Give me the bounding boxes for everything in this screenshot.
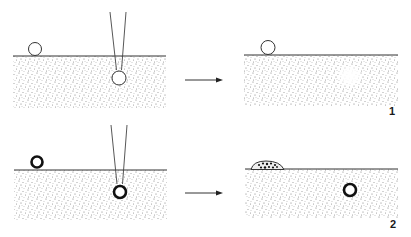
surface-ring-icon bbox=[32, 157, 43, 168]
surface-sphere-icon bbox=[261, 41, 275, 55]
surface-colony-dome bbox=[251, 161, 284, 170]
panel-1 bbox=[13, 12, 398, 108]
injected-sphere-icon bbox=[112, 71, 126, 85]
diagram-canvas bbox=[0, 0, 411, 237]
panel-1-arrow bbox=[185, 78, 223, 83]
panel-label-2: 2 bbox=[390, 218, 396, 230]
right-arrow-icon bbox=[216, 191, 223, 196]
panel-2-arrow bbox=[185, 191, 223, 196]
substrate-block bbox=[244, 55, 398, 106]
panel-2-after bbox=[245, 161, 398, 218]
panel-2 bbox=[14, 125, 398, 220]
panel-1-after bbox=[244, 41, 398, 107]
substrate-block bbox=[13, 56, 166, 108]
injected-ring-icon bbox=[114, 186, 126, 198]
embedded-ring-icon bbox=[344, 184, 356, 196]
surface-sphere-icon bbox=[29, 43, 42, 56]
panel-label-1: 1 bbox=[389, 105, 395, 117]
substrate-block bbox=[245, 169, 398, 218]
substrate-block bbox=[14, 170, 167, 220]
panel-1-before bbox=[13, 12, 166, 108]
cleared-zone bbox=[337, 64, 363, 88]
panel-2-before bbox=[14, 125, 167, 220]
right-arrow-icon bbox=[216, 78, 223, 83]
